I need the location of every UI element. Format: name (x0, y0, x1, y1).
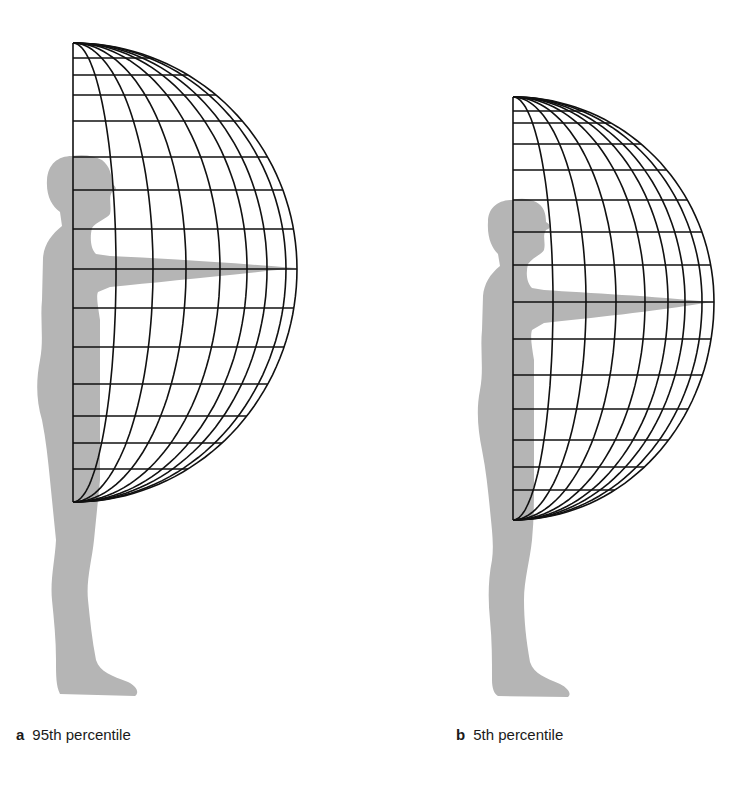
caption-label-a: 95th percentile (32, 726, 130, 743)
caption-5th: b5th percentile (456, 726, 563, 743)
caption-letter-b: b (456, 726, 465, 743)
caption-letter-a: a (16, 726, 24, 743)
reach-envelope-figure (0, 0, 744, 792)
human-silhouette-95th (37, 155, 296, 696)
caption-95th: a95th percentile (16, 726, 131, 743)
caption-label-b: 5th percentile (473, 726, 563, 743)
